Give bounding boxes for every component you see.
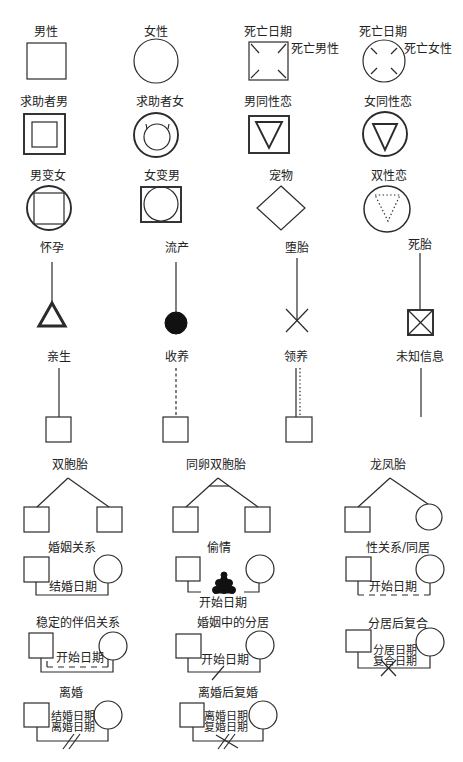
date-label: 复婚日期: [204, 720, 248, 734]
symbol-label: 女性: [144, 24, 168, 39]
relationship-label: 离婚: [59, 685, 83, 700]
relationship-label: 婚姻关系: [48, 540, 96, 555]
relationship-label: 婚姻中的分居: [197, 615, 269, 630]
relationship-label: 稳定的伴侣关系: [36, 615, 120, 630]
relationship-label: 分居后复合: [368, 616, 428, 631]
symbol-label: 男同性恋: [244, 94, 292, 109]
symbol-label: 双性恋: [371, 168, 407, 183]
symbol-annotation: 死亡男性: [291, 42, 339, 56]
symbol-label: 死亡日期: [359, 25, 407, 39]
symbol-label: 未知信息: [396, 349, 444, 364]
symbol-label: 领养: [284, 349, 308, 364]
symbol-label: 宠物: [269, 168, 293, 183]
symbol-label: 求助者女: [136, 94, 184, 109]
symbol-label: 龙凤胎: [370, 458, 406, 472]
date-label: 开始日期: [201, 653, 249, 667]
date-label: 复合日期: [373, 654, 417, 668]
symbol-label: 女变男: [144, 168, 180, 183]
symbol-label: 女同性恋: [364, 94, 412, 109]
symbol-label: 死亡日期: [244, 25, 292, 39]
symbol-annotation: 死亡女性: [404, 41, 452, 56]
symbol-label: 怀孕: [40, 241, 64, 255]
symbol-label: 求助者男: [20, 95, 68, 109]
symbol-label: 亲生: [47, 350, 71, 364]
miscarriage-filled-circle-icon: [165, 312, 187, 334]
relationship-label: 性关系/同居: [366, 541, 430, 555]
symbol-label: 男性: [34, 25, 58, 39]
date-label: 离婚日期: [51, 720, 95, 734]
genogram-symbol-legend: 男性 女性 死亡日期 死亡男性 死亡日期 死亡女性 求助者男: [0, 0, 463, 762]
date-label: 结婚日期: [49, 580, 97, 594]
relationship-label: 偷情: [207, 540, 231, 555]
symbol-label: 同卵双胞胎: [186, 458, 246, 472]
symbol-label: 死胎: [408, 238, 432, 252]
symbol-label: 收养: [165, 349, 189, 364]
symbol-label: 双胞胎: [52, 458, 88, 472]
symbol-label: 男变女: [30, 168, 66, 183]
date-label: 开始日期: [369, 580, 417, 594]
date-label: 开始日期: [56, 651, 104, 665]
date-label: 开始日期: [199, 596, 247, 610]
symbol-label: 堕胎: [285, 241, 309, 255]
relationship-label: 离婚后复婚: [198, 685, 258, 700]
symbol-label: 流产: [165, 241, 189, 255]
